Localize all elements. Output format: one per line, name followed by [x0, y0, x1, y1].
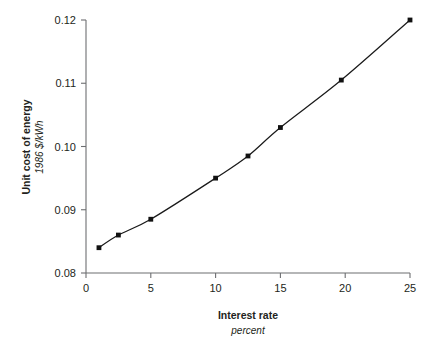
data-point — [116, 233, 121, 238]
y-tick-label: 0.12 — [55, 14, 76, 26]
y-axis-subtitle: 1986 $/kWh — [34, 120, 45, 174]
x-tick-label: 20 — [339, 282, 351, 294]
chart-container: 0.080.090.100.110.12 0510152025 Interest… — [0, 0, 428, 346]
x-tick-label: 0 — [83, 282, 89, 294]
x-tick-label: 25 — [404, 282, 416, 294]
y-axis-title: Unit cost of energy — [20, 99, 32, 194]
y-tick-label: 0.08 — [55, 267, 76, 279]
data-point-markers — [97, 18, 413, 251]
y-tick-label: 0.10 — [55, 141, 76, 153]
x-tick-label: 15 — [274, 282, 286, 294]
y-tick-label: 0.09 — [55, 204, 76, 216]
x-tick-label: 5 — [148, 282, 154, 294]
series-line — [99, 20, 410, 248]
data-series — [99, 20, 410, 248]
data-point — [408, 18, 413, 23]
x-tick-label: 10 — [209, 282, 221, 294]
data-point — [213, 176, 218, 181]
line-chart: 0.080.090.100.110.12 0510152025 Interest… — [0, 0, 428, 346]
data-point — [278, 125, 283, 130]
y-tick-label: 0.11 — [55, 77, 76, 89]
chart-axes — [86, 20, 410, 273]
chart-tick-marks — [81, 20, 410, 278]
data-point — [148, 217, 153, 222]
data-point — [97, 245, 102, 250]
x-axis-title: Interest rate — [218, 309, 278, 321]
data-point — [339, 78, 344, 83]
y-axis-tick-labels: 0.080.090.100.110.12 — [55, 14, 76, 279]
x-axis-subtitle: percent — [230, 325, 266, 336]
x-axis-tick-labels: 0510152025 — [83, 282, 416, 294]
data-point — [246, 154, 251, 159]
